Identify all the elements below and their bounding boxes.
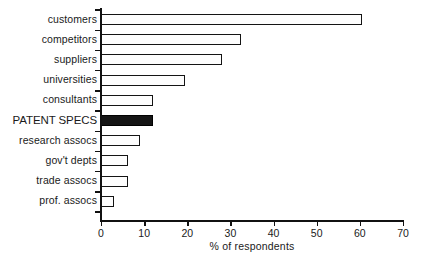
bar-rect <box>101 176 128 187</box>
y-axis-label-2: suppliers <box>3 54 97 65</box>
x-axis-tick-0 <box>101 221 102 226</box>
bar-rect <box>101 34 241 45</box>
y-axis-label-0: customers <box>3 14 97 25</box>
bar-rect <box>101 115 153 126</box>
bar-rect <box>101 95 153 106</box>
x-axis-line <box>100 220 404 222</box>
x-axis-tick-7 <box>403 221 404 226</box>
x-axis-tick-5 <box>317 221 318 226</box>
x-axis-tick-label-4: 40 <box>256 227 292 239</box>
x-axis-tick-label-7: 70 <box>385 227 421 239</box>
x-axis-tick-6 <box>360 221 361 226</box>
bar-rect <box>101 196 114 207</box>
x-axis-tick-label-3: 30 <box>212 227 248 239</box>
x-axis-tick-label-5: 50 <box>299 227 335 239</box>
y-axis-label-1: competitors <box>3 34 97 45</box>
bar-rect <box>101 155 128 166</box>
x-axis-tick-1 <box>144 221 145 226</box>
bar-rect <box>101 54 222 65</box>
x-axis-tick-4 <box>274 221 275 226</box>
x-axis-tick-label-6: 60 <box>342 227 378 239</box>
x-axis-tick-2 <box>187 221 188 226</box>
bar-rect <box>101 135 140 146</box>
plot-area <box>101 8 403 220</box>
y-axis-line <box>100 8 102 221</box>
x-axis-tick-label-1: 10 <box>126 227 162 239</box>
bar-chart: customerscompetitorssuppliersuniversitie… <box>0 0 421 265</box>
y-axis-label-5: PATENT SPECS <box>3 115 97 126</box>
bar-rect <box>101 14 362 25</box>
y-axis-label-8: trade assocs <box>3 175 97 186</box>
bar-rect <box>101 75 185 86</box>
y-axis-label-3: universities <box>3 74 97 85</box>
y-axis-label-7: gov't depts <box>3 155 97 166</box>
y-axis-category-labels: customerscompetitorssuppliersuniversitie… <box>0 8 97 220</box>
x-axis-tick-3 <box>230 221 231 226</box>
y-axis-label-4: consultants <box>3 94 97 105</box>
x-axis-title: % of respondents <box>101 240 403 252</box>
x-axis-tick-label-2: 20 <box>169 227 205 239</box>
y-axis-label-6: research assocs <box>3 135 97 146</box>
x-axis-tick-label-0: 0 <box>83 227 119 239</box>
y-axis-label-9: prof. assocs <box>3 195 97 206</box>
